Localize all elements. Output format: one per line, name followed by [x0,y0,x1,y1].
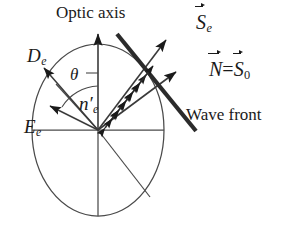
ray-lower-right [98,130,150,197]
wave-front-line [117,34,196,131]
label-de-symbol: D [27,45,41,66]
label-optic-axis: Optic axis [56,4,125,21]
label-se-subscript: e [206,21,212,35]
label-ee-symbol: E [24,116,36,137]
label-poynting-extraordinary: Se [196,12,212,35]
label-n-symbol: N [209,58,222,80]
optics-diagram: Optic axis Se N=S0 Wave front De θ n′e E… [0,0,287,245]
label-wave-normal: N=S0 [209,59,250,82]
label-theta: θ [70,66,78,83]
polarization-arrows [105,66,153,128]
label-ne-subscript: e [93,103,98,116]
label-wave-front: Wave front [186,106,262,123]
label-se-symbol: S [196,11,206,33]
label-displacement: De [27,46,46,68]
label-electric-field: Ee [24,117,41,139]
label-s0-subscript: 0 [244,68,250,82]
label-s0-symbol: S [234,58,244,80]
label-de-subscript: e [41,55,46,68]
label-ee-subscript: e [36,126,41,139]
label-refractive-index: n′e [79,94,98,116]
label-equals: = [222,58,233,80]
label-ne-symbol: n [79,93,89,114]
